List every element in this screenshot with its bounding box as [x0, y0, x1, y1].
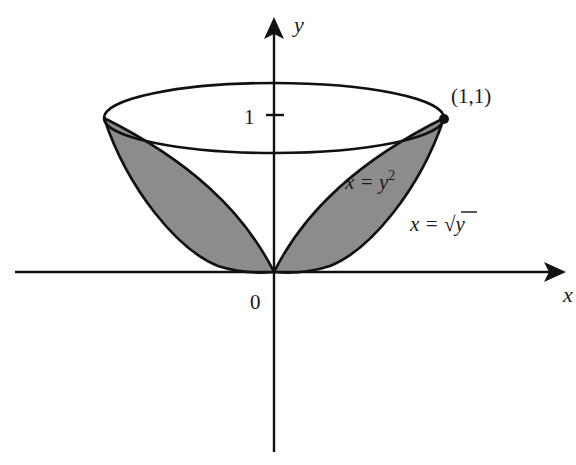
solid-of-revolution-diagram: y x 0 1 (1,1) x = y2 x = √y — [0, 0, 576, 465]
y-axis-label: y — [292, 12, 304, 37]
upper-curve-label: x = y2 — [344, 168, 395, 194]
origin-label: 0 — [250, 290, 261, 314]
point-label: (1,1) — [451, 84, 491, 108]
lower-curve-label-lhs: x = — [409, 212, 444, 236]
point-1-1 — [439, 114, 449, 124]
lower-curve-label: x = √y — [409, 212, 466, 236]
y-tick-label: 1 — [244, 105, 255, 129]
lower-curve-label-radicand: y — [454, 212, 466, 236]
sqrt-symbol: √ — [444, 212, 456, 236]
upper-curve-label-lhs: x = y — [344, 170, 389, 194]
upper-curve-label-exponent: 2 — [388, 168, 395, 183]
x-axis-label: x — [562, 282, 573, 307]
